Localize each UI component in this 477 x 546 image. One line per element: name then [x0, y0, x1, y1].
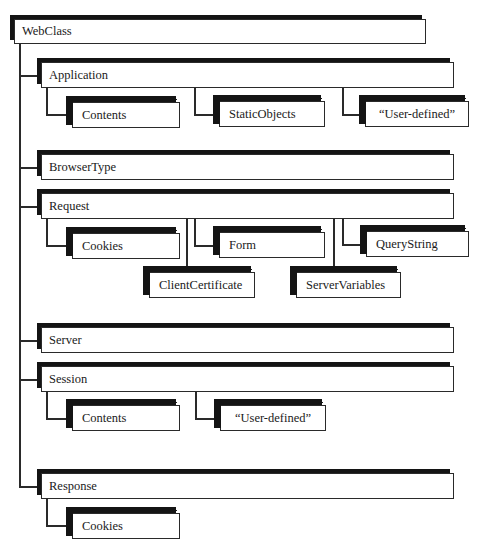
application-contents-label: Contents: [82, 108, 126, 123]
connector-application: [19, 75, 39, 77]
request-node: Request: [41, 193, 454, 219]
connector-server: [19, 340, 39, 342]
response-label: Response: [49, 479, 97, 494]
connector-req-form-h: [194, 245, 214, 247]
connector-session-contents-v: [46, 392, 48, 419]
request-servervariables-label: ServerVariables: [306, 278, 385, 293]
connector-req-form-v: [194, 219, 196, 246]
server-label: Server: [49, 333, 82, 348]
application-contents-collection: Contents: [72, 102, 180, 128]
session-userdefined-label: “User-defined”: [235, 411, 311, 426]
webclass-object-model-diagram: WebClass Application Contents StaticObje…: [0, 0, 477, 546]
request-clientcertificate-collection: ClientCertificate: [149, 272, 255, 298]
webclass-label: WebClass: [22, 24, 72, 39]
connector-app-contents-h: [46, 114, 68, 116]
connector-req-clientcert-v: [186, 219, 188, 271]
connector-app-userdefined-v: [342, 88, 344, 115]
application-staticobjects-collection: StaticObjects: [219, 101, 325, 127]
session-contents-label: Contents: [82, 411, 126, 426]
server-node: Server: [41, 327, 454, 353]
connector-session-userdefined-h: [195, 418, 215, 420]
trunk-connector: [19, 43, 21, 487]
request-servervariables-collection: ServerVariables: [296, 272, 401, 298]
request-cookies-label: Cookies: [82, 239, 123, 254]
connector-response: [19, 486, 39, 488]
application-label: Application: [49, 68, 108, 83]
session-label: Session: [49, 372, 87, 387]
connector-request: [19, 206, 39, 208]
request-querystring-collection: QueryString: [366, 231, 469, 257]
browsertype-label: BrowserType: [49, 160, 116, 175]
connector-req-cookies-v: [46, 219, 48, 246]
connector-response-cookies-h: [46, 525, 68, 527]
session-userdefined-collection: “User-defined”: [220, 405, 326, 431]
request-label: Request: [49, 199, 89, 214]
connector-session: [19, 379, 39, 381]
browsertype-node: BrowserType: [41, 154, 454, 180]
request-querystring-label: QueryString: [376, 237, 438, 252]
connector-app-contents-v: [46, 88, 48, 115]
application-userdefined-label: “User-defined”: [379, 107, 455, 122]
request-clientcertificate-label: ClientCertificate: [159, 278, 242, 293]
response-node: Response: [41, 473, 454, 499]
webclass-node: WebClass: [14, 19, 426, 44]
request-form-collection: Form: [219, 232, 325, 258]
application-node: Application: [41, 62, 454, 88]
request-form-label: Form: [229, 238, 256, 253]
application-userdefined-collection: “User-defined”: [365, 101, 469, 127]
connector-session-contents-h: [46, 418, 68, 420]
session-node: Session: [41, 366, 454, 392]
application-staticobjects-label: StaticObjects: [229, 107, 296, 122]
connector-req-querystring-v: [342, 219, 344, 245]
connector-req-servervars-v: [333, 219, 335, 271]
connector-req-cookies-h: [46, 245, 68, 247]
response-cookies-collection: Cookies: [72, 513, 180, 539]
connector-app-staticobjects-v: [194, 88, 196, 115]
connector-req-querystring-h: [342, 244, 362, 246]
connector-response-cookies-v: [46, 499, 48, 526]
session-contents-collection: Contents: [72, 405, 180, 431]
request-cookies-collection: Cookies: [72, 233, 180, 259]
response-cookies-label: Cookies: [82, 519, 123, 534]
connector-session-userdefined-v: [195, 392, 197, 419]
connector-app-staticobjects-h: [194, 114, 214, 116]
connector-browsertype: [19, 167, 39, 169]
